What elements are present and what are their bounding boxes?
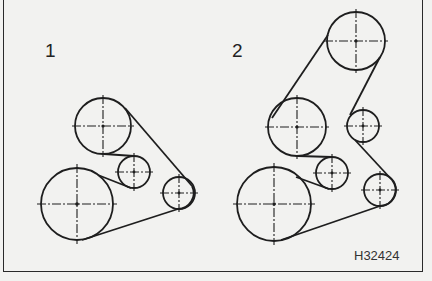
belt-routing-diagram [0,0,432,281]
belt-panel-2 [272,35,396,240]
panel-1-label: 1 [45,40,56,62]
panel-2-label: 2 [232,40,243,62]
reference-code: H32424 [354,248,400,263]
center-lines [37,9,399,245]
belt-panel-1 [82,108,194,240]
